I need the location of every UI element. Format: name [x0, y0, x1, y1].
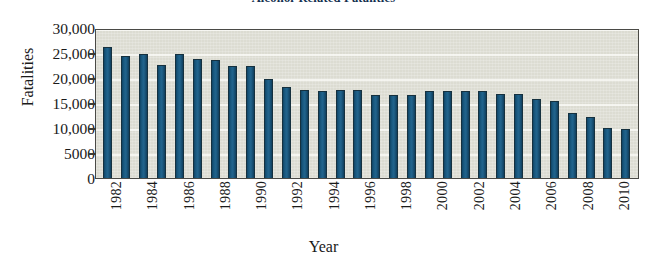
- bar-slot: [438, 30, 456, 178]
- bar-slot: [617, 30, 635, 178]
- x-axis-tick-labels: 1982198419861988199019921994199619982000…: [95, 181, 639, 237]
- bar: [336, 90, 345, 178]
- bar-slot: [385, 30, 403, 178]
- y-tick-mark: [88, 128, 96, 130]
- bar-slot: [117, 30, 135, 178]
- bar-slot: [313, 30, 331, 178]
- bar-slot: [563, 30, 581, 178]
- bar-slot: [545, 30, 563, 178]
- bar: [496, 94, 505, 179]
- bar: [228, 66, 237, 178]
- bar-slot: [599, 30, 617, 178]
- x-tick-label: 1998: [400, 181, 414, 210]
- bar-slot: [153, 30, 171, 178]
- bar: [175, 54, 184, 178]
- bar-slot: [224, 30, 242, 178]
- bar: [514, 94, 523, 178]
- bar-slot: [331, 30, 349, 178]
- bar: [425, 91, 434, 179]
- y-tick-label: 0: [11, 171, 95, 187]
- bar: [371, 95, 380, 179]
- chart-figure: Alcohol-Related Fatalities Fatalities 05…: [0, 0, 647, 270]
- bar: [282, 87, 291, 178]
- y-tick-mark: [88, 153, 96, 155]
- bar: [157, 65, 166, 178]
- y-tick-mark: [88, 53, 96, 55]
- bar-slot: [528, 30, 546, 178]
- y-tick-mark: [88, 78, 96, 80]
- bar: [443, 91, 452, 179]
- bar: [121, 56, 130, 179]
- x-tick-label: 1982: [110, 181, 124, 210]
- plot-area: [95, 29, 639, 179]
- x-tick-label: 2000: [436, 181, 450, 210]
- bar-slot: [135, 30, 153, 178]
- bar-slot: [242, 30, 260, 178]
- bar-slot: [170, 30, 188, 178]
- bar: [550, 101, 559, 178]
- y-tick-label: 25,000: [11, 46, 95, 62]
- bar: [461, 91, 470, 179]
- bar-slot: [260, 30, 278, 178]
- y-tick-label: 10,000: [11, 121, 95, 137]
- bar: [193, 59, 202, 179]
- bar: [318, 91, 327, 178]
- bar: [246, 66, 255, 179]
- x-tick-label: 2008: [582, 181, 596, 210]
- bar: [621, 129, 630, 179]
- bar-slot: [474, 30, 492, 178]
- y-tick-mark: [88, 103, 96, 105]
- y-tick-label: 30,000: [11, 21, 95, 37]
- bar-slot: [188, 30, 206, 178]
- x-tick-label: 1986: [183, 181, 197, 210]
- bar: [211, 60, 220, 178]
- bar: [139, 54, 148, 178]
- x-tick-label: 1988: [219, 181, 233, 210]
- x-tick-label: 2002: [473, 181, 487, 210]
- x-tick-label: 1984: [146, 181, 160, 210]
- bar-slot: [349, 30, 367, 178]
- x-tick-label: 2004: [509, 181, 523, 210]
- y-tick-label: 20,000: [11, 71, 95, 87]
- bar-slot: [99, 30, 117, 178]
- bar-series: [96, 30, 638, 178]
- bar: [300, 90, 309, 179]
- bar-slot: [403, 30, 421, 178]
- x-tick-label: 1990: [255, 181, 269, 210]
- y-tick-label: 5000: [11, 146, 95, 162]
- bar: [353, 90, 362, 179]
- bar: [603, 128, 612, 179]
- x-axis-title: Year: [0, 238, 647, 256]
- x-tick-label: 2010: [618, 181, 632, 210]
- bar-slot: [295, 30, 313, 178]
- x-tick-label: 2006: [545, 181, 559, 210]
- x-tick-label: 1994: [328, 181, 342, 210]
- bar-slot: [456, 30, 474, 178]
- x-tick-label: 1992: [291, 181, 305, 210]
- bar-slot: [420, 30, 438, 178]
- bar-slot: [206, 30, 224, 178]
- bar: [103, 47, 112, 178]
- y-tick-label: 15,000: [11, 96, 95, 112]
- bar-slot: [367, 30, 385, 178]
- bar: [478, 91, 487, 179]
- bar: [407, 95, 416, 179]
- bar: [264, 79, 273, 178]
- bar: [586, 117, 595, 178]
- bar-slot: [278, 30, 296, 178]
- x-tick-label: 1996: [364, 181, 378, 210]
- bar: [389, 95, 398, 179]
- bar: [568, 113, 577, 179]
- bar-slot: [492, 30, 510, 178]
- bar-slot: [581, 30, 599, 178]
- bar-slot: [510, 30, 528, 178]
- chart-title: Alcohol-Related Fatalities: [0, 0, 647, 6]
- bar: [532, 99, 541, 178]
